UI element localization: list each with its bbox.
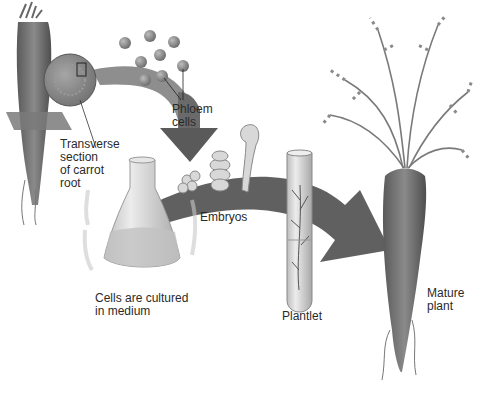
carrot-root-illustration (6, 2, 96, 225)
label-embryos: Embryos (200, 211, 247, 224)
carrot-tissue-culture-diagram: Transverse section of carrot root Phloem… (0, 0, 479, 396)
label-cells-cultured: Cells are cultured in medium (95, 292, 188, 318)
label-transverse-section: Transverse section of carrot root (60, 138, 120, 190)
label-plantlet: Plantlet (282, 310, 322, 323)
plantlet-tube-illustration (287, 150, 312, 312)
mature-carrot-illustration (382, 169, 426, 381)
label-mature-plant: Mature plant (427, 287, 464, 313)
label-phloem-cells: Phloem cells (172, 103, 213, 129)
mature-plant-foliage-illustration (322, 15, 472, 168)
